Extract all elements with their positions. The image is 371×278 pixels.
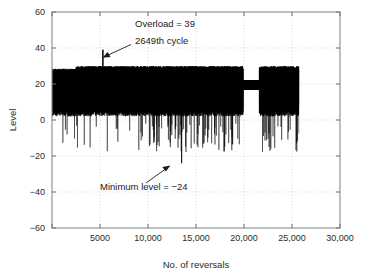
y-tick-label: 60 bbox=[35, 7, 45, 17]
x-tick-label: 20,000 bbox=[230, 233, 258, 243]
x-tick-label: 5000 bbox=[90, 233, 110, 243]
overload-annotation-line1: Overload = 39 bbox=[135, 18, 195, 29]
y-tick-label: 40 bbox=[35, 43, 45, 53]
x-tick-label: 30,000 bbox=[326, 233, 354, 243]
chart-figure: 500010,00015,00020,00025,00030,000 −60−4… bbox=[0, 0, 371, 278]
x-axis-title: No. of reversals bbox=[163, 259, 230, 270]
y-tick-label: 20 bbox=[35, 79, 45, 89]
x-tick-label: 25,000 bbox=[278, 233, 306, 243]
x-tick-label: 15,000 bbox=[182, 233, 210, 243]
y-axis-title: Level bbox=[7, 109, 18, 132]
y-tick-label: −20 bbox=[30, 151, 45, 161]
overload-annotation-line2: 2649th cycle bbox=[135, 35, 188, 46]
reversals-level-chart: 500010,00015,00020,00025,00030,000 −60−4… bbox=[0, 0, 371, 278]
y-tick-label: −40 bbox=[30, 187, 45, 197]
x-tick-label: 10,000 bbox=[134, 233, 162, 243]
y-tick-label: −60 bbox=[30, 223, 45, 233]
minimum-annotation-label: Minimum level = −24 bbox=[100, 181, 188, 192]
y-tick-label: 0 bbox=[40, 115, 45, 125]
